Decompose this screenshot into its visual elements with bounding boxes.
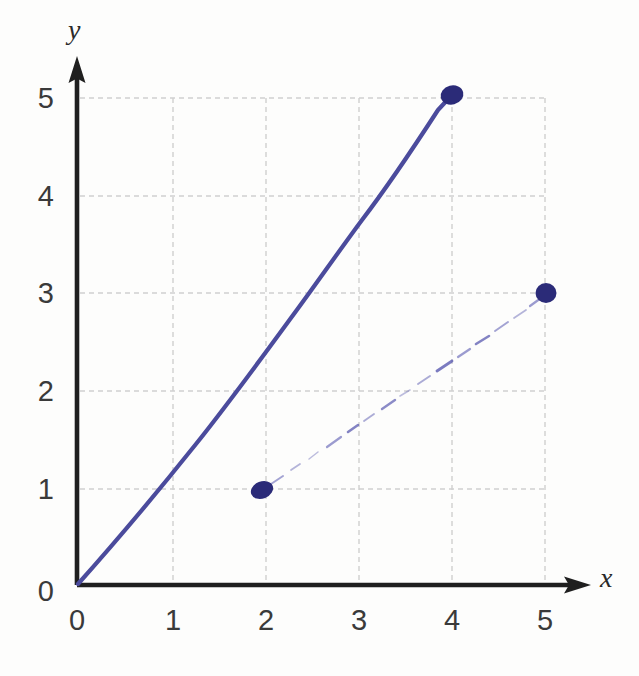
y-tick-label-0: 0: [14, 577, 54, 606]
data-point-markers: [248, 83, 556, 502]
y-tick-label-5: 5: [14, 84, 54, 113]
grid-horizontal: [80, 98, 545, 489]
y-axis: [69, 56, 86, 585]
x-tick-label-0: 0: [57, 606, 97, 635]
y-tick-label-4: 4: [14, 182, 54, 211]
grid-vertical: [173, 98, 545, 585]
y-tick-label-3: 3: [14, 279, 54, 308]
y-tick-label-2: 2: [14, 377, 54, 406]
y-tick-label-1: 1: [14, 475, 54, 504]
x-tick-label-4: 4: [432, 606, 472, 635]
chart-canvas: y x 0 1 2 3 4 5 0 1 2 3 4 5: [0, 0, 639, 676]
series-dashed-line: [268, 298, 541, 486]
x-tick-label-1: 1: [153, 606, 193, 635]
coordinate-plot: [0, 0, 639, 676]
x-tick-label-3: 3: [339, 606, 379, 635]
y-axis-title: y: [68, 16, 80, 44]
x-tick-label-5: 5: [525, 606, 565, 635]
series-solid-line: [78, 96, 451, 584]
x-axis-title: x: [600, 564, 612, 592]
x-axis: [77, 577, 591, 594]
x-tick-label-2: 2: [246, 606, 286, 635]
